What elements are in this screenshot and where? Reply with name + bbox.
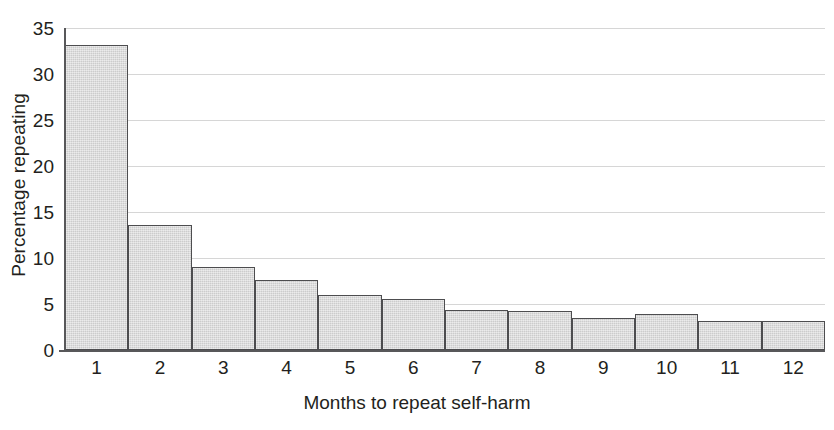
bar bbox=[65, 45, 128, 350]
x-tick-label: 7 bbox=[453, 356, 501, 380]
y-tick-label: 25 bbox=[24, 111, 54, 130]
bar bbox=[382, 299, 445, 350]
x-axis-ticks: 123456789101112 bbox=[65, 356, 825, 382]
plot-area bbox=[65, 28, 825, 350]
gridline bbox=[65, 212, 825, 213]
y-tick-label: 0 bbox=[24, 341, 54, 360]
y-tick-label: 35 bbox=[24, 19, 54, 38]
gridline bbox=[65, 28, 825, 29]
y-tick-label: 20 bbox=[24, 157, 54, 176]
bar bbox=[445, 310, 508, 350]
y-tick-label: 30 bbox=[24, 65, 54, 84]
x-tick-label: 8 bbox=[516, 356, 564, 380]
x-tick-label: 5 bbox=[326, 356, 374, 380]
bar-chart: Percentage repeating 05101520253035 1234… bbox=[0, 0, 834, 430]
x-tick-label: 9 bbox=[579, 356, 627, 380]
x-axis-title: Months to repeat self-harm bbox=[0, 392, 834, 414]
bar bbox=[635, 314, 698, 350]
x-tick-label: 2 bbox=[136, 356, 184, 380]
bar bbox=[128, 225, 191, 350]
x-tick-label: 11 bbox=[706, 356, 754, 380]
bar bbox=[572, 318, 635, 350]
y-axis-line bbox=[64, 28, 66, 351]
bar bbox=[698, 321, 761, 350]
gridline bbox=[65, 120, 825, 121]
y-tick-label: 10 bbox=[24, 249, 54, 268]
x-tick-label: 12 bbox=[769, 356, 817, 380]
y-axis-ticks: 05101520253035 bbox=[24, 0, 54, 430]
x-axis-line bbox=[59, 350, 825, 352]
y-tick-label: 15 bbox=[24, 203, 54, 222]
x-tick-label: 3 bbox=[199, 356, 247, 380]
bar bbox=[762, 321, 825, 350]
y-tick-label: 5 bbox=[24, 295, 54, 314]
gridline bbox=[65, 74, 825, 75]
x-tick-label: 4 bbox=[263, 356, 311, 380]
gridline bbox=[65, 166, 825, 167]
bar bbox=[508, 311, 571, 350]
x-tick-label: 6 bbox=[389, 356, 437, 380]
bar bbox=[255, 280, 318, 350]
x-tick-label: 10 bbox=[643, 356, 691, 380]
x-tick-label: 1 bbox=[73, 356, 121, 380]
bar bbox=[192, 267, 255, 350]
bar bbox=[318, 295, 381, 350]
